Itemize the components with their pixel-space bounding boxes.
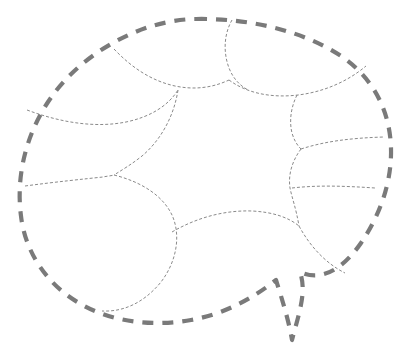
diagram-canvas: Dashed boundary region with interior cel… <box>0 0 413 348</box>
canvas-background <box>0 0 413 348</box>
diagram-svg <box>0 0 413 348</box>
